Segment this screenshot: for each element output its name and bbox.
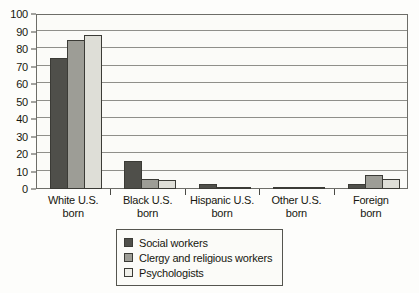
legend-swatch-icon: [124, 268, 133, 277]
bar: [124, 161, 142, 189]
bar-groups: [36, 14, 408, 189]
x-axis-label-2: Hispanic U.S.born: [185, 194, 259, 220]
y-axis: 0102030405060708090100: [0, 14, 36, 189]
legend-label: Psychologists: [139, 267, 204, 279]
bar: [365, 175, 383, 189]
legend-label: Social workers: [139, 237, 208, 249]
y-tick-label-20: 20: [16, 148, 28, 160]
y-tick-label-30: 30: [16, 131, 28, 143]
bar-group: [334, 14, 408, 189]
y-tick-label-0: 0: [22, 183, 28, 195]
y-tick-label-40: 40: [16, 113, 28, 125]
y-tick-label-10: 10: [16, 166, 28, 178]
y-tick-label-70: 70: [16, 61, 28, 73]
bar: [67, 40, 85, 189]
y-tick-label-50: 50: [16, 96, 28, 108]
bar: [84, 35, 102, 189]
x-axis-label-4: Foreignborn: [334, 194, 408, 220]
bar-group: [185, 14, 259, 189]
bar-group: [259, 14, 333, 189]
x-axis-label-1: Black U.S.born: [110, 194, 184, 220]
y-tick-label-60: 60: [16, 78, 28, 90]
y-tick-label-100: 100: [10, 8, 28, 20]
x-axis-label-3: Other U.S.born: [259, 194, 333, 220]
legend-item[interactable]: Psychologists: [124, 265, 272, 280]
x-axis-labels: White U.S.bornBlack U.S.bornHispanic U.S…: [36, 194, 408, 220]
legend-swatch-icon: [124, 253, 133, 262]
bar-chart: 0102030405060708090100 White U.S.bornBla…: [0, 0, 419, 293]
legend-label: Clergy and religious workers: [139, 252, 272, 264]
bar: [50, 58, 68, 189]
x-axis-label-0: White U.S.born: [36, 194, 110, 220]
bar: [382, 179, 400, 190]
bar: [141, 179, 159, 190]
legend-item[interactable]: Social workers: [124, 235, 272, 250]
bar-group: [110, 14, 184, 189]
bar: [158, 180, 176, 189]
legend: Social workersClergy and religious worke…: [116, 229, 283, 286]
y-tick-label-80: 80: [16, 43, 28, 55]
y-tick-label-90: 90: [16, 26, 28, 38]
legend-item[interactable]: Clergy and religious workers: [124, 250, 272, 265]
legend-swatch-icon: [124, 238, 133, 247]
bar-group: [36, 14, 110, 189]
